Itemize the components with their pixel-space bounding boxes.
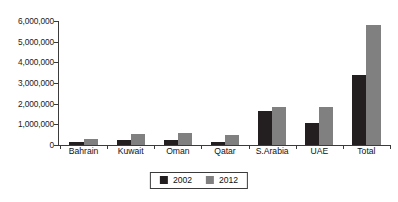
y-axis-tick-mark: [54, 104, 58, 105]
bar-2002: [117, 140, 131, 145]
x-axis-tick-label: Total: [343, 147, 390, 156]
y-axis-tick-mark: [54, 21, 58, 22]
bar-2002: [211, 142, 225, 145]
y-axis-tick-mark: [54, 124, 58, 125]
x-axis-tick-label: Kuwait: [107, 147, 154, 156]
y-axis-tick-label: 2,000,000: [2, 100, 54, 108]
bars-area: [60, 21, 390, 145]
y-axis-tick-label: 4,000,000: [2, 58, 54, 66]
bar-2012: [84, 139, 98, 145]
legend-label-2012: 2012: [219, 176, 238, 185]
legend-item-2002: 2002: [160, 176, 192, 185]
bar-2012: [366, 25, 380, 145]
bar-2002: [352, 75, 366, 145]
bar-2012: [225, 135, 239, 145]
legend-label-2002: 2002: [173, 176, 192, 185]
bar-group: [107, 21, 154, 145]
bar-group: [296, 21, 343, 145]
x-axis-tick-label: Qatar: [201, 147, 248, 156]
y-axis-tick-mark: [54, 62, 58, 63]
y-axis-tick-labels: 01,000,0002,000,0003,000,0004,000,0005,0…: [2, 0, 54, 166]
bar-chart: 01,000,0002,000,0003,000,0004,000,0005,0…: [0, 0, 398, 202]
y-axis-tick-label: 6,000,000: [2, 17, 54, 25]
bar-group: [60, 21, 107, 145]
bar-group: [249, 21, 296, 145]
bar-2012: [178, 133, 192, 145]
legend-swatch-2012: [206, 176, 214, 184]
legend: 2002 2012: [150, 172, 248, 189]
y-axis-tick-mark: [54, 83, 58, 84]
x-axis-tick-label: UAE: [296, 147, 343, 156]
bar-2002: [69, 142, 83, 145]
x-axis-tick-labels: BahrainKuwaitOmanQatarS.ArabiaUAETotal: [60, 147, 390, 163]
x-axis-tick-label: Oman: [154, 147, 201, 156]
bar-group: [343, 21, 390, 145]
bar-2012: [131, 134, 145, 145]
bar-group: [201, 21, 248, 145]
y-axis-tick-mark: [54, 42, 58, 43]
bar-2012: [319, 107, 333, 145]
x-axis-tick-label: S.Arabia: [249, 147, 296, 156]
bar-2002: [258, 111, 272, 145]
legend-item-2012: 2012: [206, 176, 238, 185]
x-axis-tick-label: Bahrain: [60, 147, 107, 156]
x-axis-tick-mark: [390, 145, 391, 149]
y-axis-tick-label: 3,000,000: [2, 79, 54, 87]
bar-2002: [305, 123, 319, 145]
legend-swatch-2002: [160, 176, 168, 184]
bar-2002: [164, 140, 178, 145]
y-axis-tick-mark: [54, 145, 58, 146]
y-axis-line: [58, 21, 59, 145]
y-axis-tick-label: 5,000,000: [2, 38, 54, 46]
bar-group: [154, 21, 201, 145]
y-axis-tick-label: 1,000,000: [2, 120, 54, 128]
y-axis-tick-label: 0: [2, 141, 54, 149]
plot-area: 01,000,0002,000,0003,000,0004,000,0005,0…: [0, 0, 398, 166]
bar-2012: [272, 107, 286, 145]
